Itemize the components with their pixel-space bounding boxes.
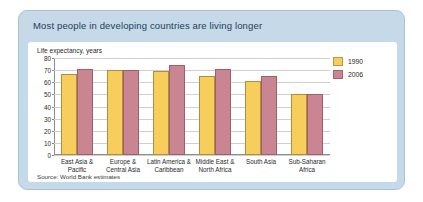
legend-item-2006: 2006 — [333, 68, 389, 81]
legend-swatch-2006-icon — [333, 70, 343, 79]
bar-2006 — [77, 69, 93, 155]
legend-label-2006: 2006 — [348, 71, 363, 78]
y-axis-tick-label: 30 — [44, 115, 51, 122]
bar-2006 — [215, 69, 231, 155]
x-axis-category-label: Europe &Central Asia — [100, 158, 146, 173]
bar-2006 — [123, 70, 139, 155]
bar-1990 — [245, 81, 261, 155]
bar-group — [146, 58, 192, 155]
grid-line — [54, 155, 330, 156]
source-note: Source: World Bank estimates — [37, 173, 120, 180]
y-axis-tick-label: 0 — [47, 152, 51, 159]
y-axis-tick — [52, 155, 54, 156]
legend-label-1990: 1990 — [348, 58, 363, 65]
bar-1990 — [61, 74, 77, 155]
bar-2006 — [307, 94, 323, 155]
plot-area: 01020304050607080 — [54, 58, 330, 155]
x-axis-category-label: Middle East &North Africa — [192, 158, 238, 173]
bar-2006 — [261, 76, 277, 155]
bar-group — [54, 58, 100, 155]
y-axis-tick-label: 80 — [44, 55, 51, 62]
bar-group — [192, 58, 238, 155]
y-axis-tick-label: 20 — [44, 127, 51, 134]
chart-legend: 1990 2006 — [333, 55, 389, 81]
plot-card: Life expectancy, years 1990 2006 0102030… — [28, 42, 397, 182]
x-axis-category-label: Sub-SaharanAfrica — [284, 158, 330, 173]
bar-1990 — [107, 70, 123, 155]
y-axis-tick-label: 60 — [44, 79, 51, 86]
chart-title: Most people in developing countries are … — [33, 20, 392, 31]
bar-1990 — [153, 71, 169, 155]
x-axis-category-label: East Asia &Pacific — [54, 158, 100, 173]
bar-1990 — [291, 94, 307, 155]
y-axis-tick-label: 70 — [44, 67, 51, 74]
bar-2006 — [169, 65, 185, 155]
legend-item-1990: 1990 — [333, 55, 389, 68]
y-axis-tick-label: 50 — [44, 91, 51, 98]
legend-swatch-1990-icon — [333, 57, 343, 66]
bar-group — [284, 58, 330, 155]
y-axis-title: Life expectancy, years — [37, 47, 102, 54]
chart-figure: Most people in developing countries are … — [18, 10, 405, 190]
x-axis-labels: East Asia &PacificEurope &Central AsiaLa… — [54, 158, 330, 173]
bar-1990 — [199, 76, 215, 155]
y-axis-tick-label: 10 — [44, 139, 51, 146]
bar-group — [100, 58, 146, 155]
y-axis-tick-label: 40 — [44, 103, 51, 110]
x-axis-category-label: Latin America &Caribbean — [146, 158, 192, 173]
bar-group — [238, 58, 284, 155]
bar-groups — [54, 58, 330, 155]
x-axis-category-label: South Asia — [238, 158, 284, 173]
